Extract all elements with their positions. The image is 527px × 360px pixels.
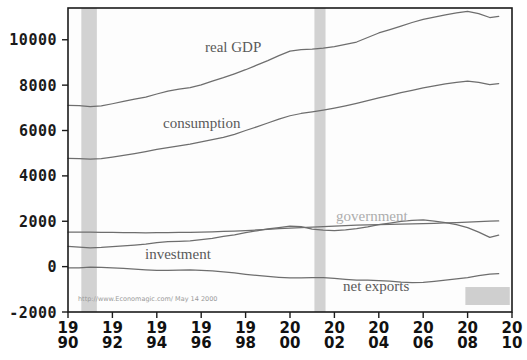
recession-band-3	[465, 287, 509, 305]
y-tick-label: -2000	[9, 304, 57, 322]
y-tick-label: 2000	[19, 213, 57, 231]
y-tick-label: 8000	[19, 77, 57, 95]
recession-swatch-group	[465, 287, 509, 305]
plot-background	[68, 8, 512, 312]
chart-container: 1000080006000400020000-2000 199019921994…	[0, 0, 527, 360]
recession-band-1	[81, 8, 97, 312]
series-label-government: government	[336, 208, 408, 224]
economic-indicators-line-chart: 1000080006000400020000-2000 199019921994…	[0, 0, 527, 360]
series-label-consumption: consumption	[163, 115, 241, 131]
x-tick-label-year: 04	[368, 334, 389, 352]
recession-band-2	[314, 8, 325, 312]
x-tick-label-year: 90	[58, 334, 79, 352]
x-tick-label-year: 08	[457, 334, 478, 352]
x-tick-label-year: 10	[502, 334, 523, 352]
x-tick-label-year: 06	[413, 334, 434, 352]
series-label-net-exports: net exports	[343, 278, 409, 294]
y-tick-label: 0	[47, 258, 57, 276]
y-tick-label: 4000	[19, 167, 57, 185]
series-label-investment: investment	[145, 246, 212, 262]
y-tick-label: 10000	[9, 31, 57, 49]
x-tick-label-year: 00	[280, 334, 301, 352]
x-tick-label-year: 94	[146, 334, 167, 352]
x-tick-label-year: 92	[102, 334, 123, 352]
x-tick-label-year: 02	[324, 334, 345, 352]
series-label-real-gdp: real GDP	[205, 39, 261, 55]
x-tick-label-year: 98	[235, 334, 256, 352]
x-tick-label-year: 96	[191, 334, 212, 352]
y-tick-label: 6000	[19, 122, 57, 140]
attribution-text: http://www.Economagic.com/ May 14 2000	[78, 295, 218, 303]
